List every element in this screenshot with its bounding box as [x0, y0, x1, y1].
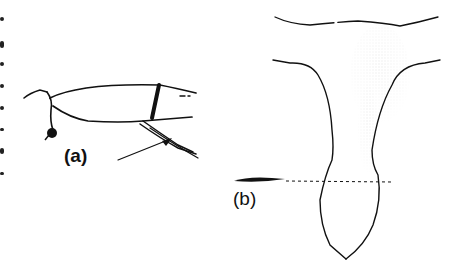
- panel-b-label: (b): [233, 188, 256, 210]
- panel-a-label: (a): [64, 145, 87, 167]
- panel-a-drawing: [24, 85, 198, 160]
- figure: (a) (b): [0, 0, 451, 275]
- lens-profile-shape: [234, 177, 285, 181]
- diagram-drawing: [0, 0, 451, 275]
